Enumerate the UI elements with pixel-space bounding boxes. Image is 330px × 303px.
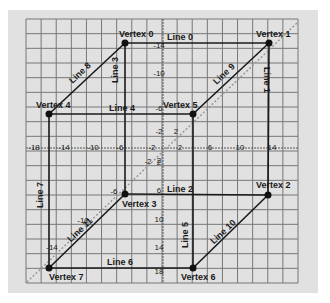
edge-label: Line 3	[110, 57, 120, 83]
vertex-point	[46, 111, 53, 118]
cube-diagram: -18-14-10-6-2261014-14-10-6-2261014182-2…	[0, 0, 330, 303]
x-tick-label: -10	[87, 143, 99, 152]
edge-line-9	[193, 43, 269, 114]
diagonal-tick-label: -6	[110, 187, 118, 196]
vertex-label: Vertex 4	[36, 100, 71, 110]
edge-label: Line 6	[107, 257, 133, 267]
edge-line-1	[268, 43, 269, 195]
vertex-label: Vertex 6	[181, 272, 216, 282]
edge-label: Line 4	[109, 103, 135, 113]
edge-label: Line 10	[208, 218, 238, 246]
vertex-label: Vertex 0	[119, 29, 154, 39]
edge-label: Line 1	[262, 67, 272, 93]
diagonal-tick-label: -14	[46, 243, 58, 252]
diagonal-tick-label: 2	[157, 156, 162, 165]
diagonal-tick-label: 2	[174, 127, 179, 136]
vertex-label: Vertex 2	[256, 180, 291, 190]
y-tick-label: -2	[155, 127, 163, 136]
vertex-point	[190, 111, 197, 118]
edge-line-2	[125, 194, 268, 195]
y-tick-label: 14	[155, 243, 164, 252]
x-tick-label: 2	[178, 143, 183, 152]
vertex-point	[122, 40, 129, 47]
y-tick-label: 10	[155, 215, 164, 224]
vertex-label: Vertex 3	[122, 199, 157, 209]
x-tick-label: -18	[28, 143, 40, 152]
vertex-label: Vertex 7	[49, 272, 84, 282]
edge-label: Line 7	[35, 182, 45, 208]
edge-label: Line 5	[180, 222, 190, 248]
x-tick-label: 10	[236, 143, 245, 152]
y-tick-label: -10	[153, 69, 165, 78]
edge-label: Line 9	[211, 61, 237, 86]
edge-label: Line 2	[167, 184, 193, 194]
vertex-point	[122, 191, 129, 198]
x-tick-label: -6	[116, 143, 124, 152]
vertex-label: Vertex 5	[163, 100, 198, 110]
vertex-point	[46, 265, 53, 272]
y-tick-label: -6	[155, 104, 163, 113]
vertex-point	[190, 265, 197, 272]
x-tick-label: 6	[208, 143, 213, 152]
edge-label: Line 0	[167, 32, 193, 42]
vertex-point	[265, 192, 272, 199]
vertex-label: Vertex 1	[256, 29, 291, 39]
x-tick-label: -14	[58, 143, 70, 152]
x-tick-label: -2	[148, 143, 156, 152]
vertex-point	[266, 40, 273, 47]
diagonal-tick-label: -2	[144, 157, 152, 166]
